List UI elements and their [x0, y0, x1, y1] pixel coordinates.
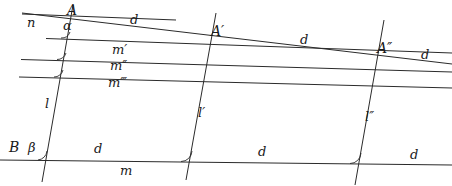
label-m-double-prime: m″ [110, 59, 127, 72]
label-angle-beta: β [28, 141, 36, 154]
line-n [22, 14, 176, 20]
label-d-bottom-right: d [410, 148, 418, 161]
line-m-double-prime [21, 60, 452, 73]
label-m-prime: m′ [112, 43, 127, 56]
label-point-A: A [67, 3, 77, 17]
label-l-prime: l′ [198, 106, 205, 119]
label-d-bottom-mid: d [258, 145, 266, 158]
angle-arc-l-prime-bottom [181, 151, 192, 162]
line-m [0, 160, 452, 165]
line-m-triple-prime [19, 77, 452, 88]
label-d-top-left: d [130, 13, 138, 26]
label-n: n [27, 16, 35, 29]
label-m: m [120, 164, 132, 177]
label-point-A-double-prime: A″ [377, 41, 392, 55]
label-m-triple-prime: m‴ [108, 76, 127, 89]
label-point-A-prime: A′ [211, 24, 224, 38]
label-d-top-mid: d [300, 33, 308, 46]
label-angle-alpha: α [63, 19, 72, 32]
diagram-canvas: n A α d A′ d A″ d m′ m″ m‴ l l′ l″ B β d… [0, 0, 452, 186]
label-d-bottom-left: d [94, 142, 102, 155]
line-d-transversal [22, 13, 452, 64]
label-l-double-prime: l″ [365, 110, 374, 123]
label-point-B: B [9, 140, 19, 154]
label-l: l [45, 97, 49, 110]
label-d-top-right: d [421, 48, 429, 61]
